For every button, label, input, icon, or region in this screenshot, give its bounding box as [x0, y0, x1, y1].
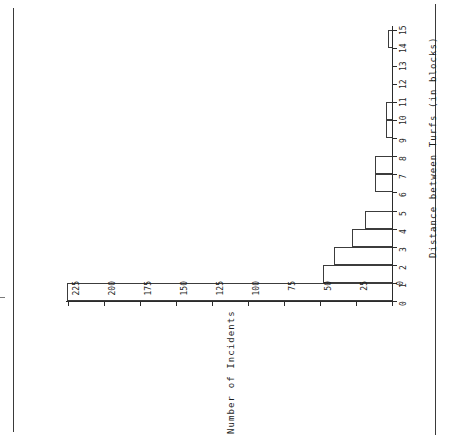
histogram-bar [386, 120, 392, 138]
histogram-chart: 0123456789101112131415 02550751001251501… [0, 0, 449, 439]
value-axis-title: Number of Incidents [226, 310, 236, 434]
value-tick [356, 302, 357, 306]
value-tick [392, 302, 393, 306]
category-tick-label: 15 [399, 11, 408, 35]
value-tick-label: 75 [288, 281, 297, 309]
histogram-bar [386, 102, 392, 120]
value-tick [248, 302, 249, 306]
value-tick-label: 25 [360, 281, 369, 309]
value-tick-label: 125 [216, 281, 225, 309]
value-tick [212, 302, 213, 306]
category-tick [393, 48, 397, 49]
category-tick [393, 174, 397, 175]
value-tick-label: 150 [180, 281, 189, 309]
value-tick-label: 175 [144, 281, 153, 309]
category-tick [393, 30, 397, 31]
category-axis-title: Distance between Turfs (in blocks) [428, 36, 438, 258]
category-tick [393, 192, 397, 193]
category-tick [393, 84, 397, 85]
category-tick [393, 120, 397, 121]
category-tick [393, 138, 397, 139]
histogram-bar [375, 174, 392, 192]
histogram-bar [375, 156, 392, 174]
value-tick-label: 225 [72, 281, 81, 309]
histogram-bar [323, 265, 392, 283]
category-tick [393, 265, 397, 266]
value-tick-label: 50 [324, 281, 333, 309]
histogram-bar [334, 247, 392, 265]
value-tick [104, 302, 105, 306]
histogram-bar [352, 229, 392, 247]
value-tick [140, 302, 141, 306]
value-tick [68, 302, 69, 306]
value-tick [320, 302, 321, 306]
category-tick [393, 156, 397, 157]
category-axis-line [392, 26, 393, 301]
value-tick [284, 302, 285, 306]
histogram-bar [365, 211, 392, 229]
category-tick [393, 211, 397, 212]
category-tick [393, 247, 397, 248]
value-tick-label: 100 [252, 281, 261, 309]
value-tick-label: 200 [108, 281, 117, 309]
value-tick-label: 0 [396, 281, 405, 309]
category-tick [393, 229, 397, 230]
histogram-bar [388, 30, 392, 48]
value-tick [176, 302, 177, 306]
category-tick [393, 66, 397, 67]
category-tick [393, 102, 397, 103]
